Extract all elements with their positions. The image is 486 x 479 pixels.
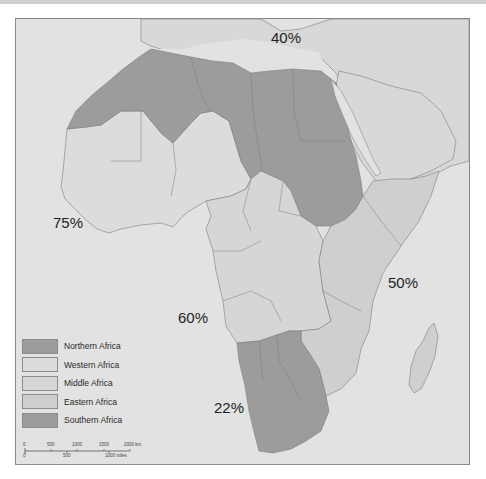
scale-mile-tick: 0 — [23, 453, 26, 458]
pct-label-western: 75% — [53, 214, 83, 231]
legend-swatch — [22, 357, 58, 372]
scale-mile-tick: 1000 miles — [105, 453, 127, 458]
legend-label: Eastern Africa — [64, 397, 117, 407]
legend: Northern Africa Western Africa Middle Af… — [22, 337, 172, 430]
legend-item-eastern: Eastern Africa — [22, 393, 172, 412]
legend-item-northern: Northern Africa — [22, 337, 172, 356]
scale-km-tick: 0 — [23, 442, 26, 447]
africa-map: 40% 75% 60% 50% 22% Northern Africa West… — [15, 18, 470, 465]
legend-swatch — [22, 413, 58, 428]
scale-km-tick: 1000 — [72, 442, 82, 447]
legend-swatch — [22, 376, 58, 391]
scale-km-tick: 1500 — [99, 442, 109, 447]
pct-label-eastern: 50% — [388, 274, 418, 291]
scale-mile-tick: 500 — [63, 453, 71, 458]
legend-item-southern: Southern Africa — [22, 411, 172, 430]
legend-label: Northern Africa — [64, 341, 121, 351]
scale-bar: 0 500 1000 1500 2000 km 0 500 1000 miles — [18, 442, 158, 460]
pct-label-northern: 40% — [271, 29, 301, 46]
legend-item-middle: Middle Africa — [22, 374, 172, 393]
legend-swatch — [22, 339, 58, 354]
top-bar — [0, 0, 486, 4]
legend-swatch — [22, 394, 58, 409]
legend-label: Southern Africa — [64, 415, 122, 425]
madagascar — [409, 323, 438, 393]
pct-label-middle: 60% — [178, 309, 208, 326]
legend-item-western: Western Africa — [22, 356, 172, 375]
legend-label: Middle Africa — [64, 378, 113, 388]
legend-label: Western Africa — [64, 360, 119, 370]
scale-km-tick: 2000 km — [124, 442, 141, 447]
pct-label-southern: 22% — [214, 399, 244, 416]
scale-km-tick: 500 — [47, 442, 55, 447]
